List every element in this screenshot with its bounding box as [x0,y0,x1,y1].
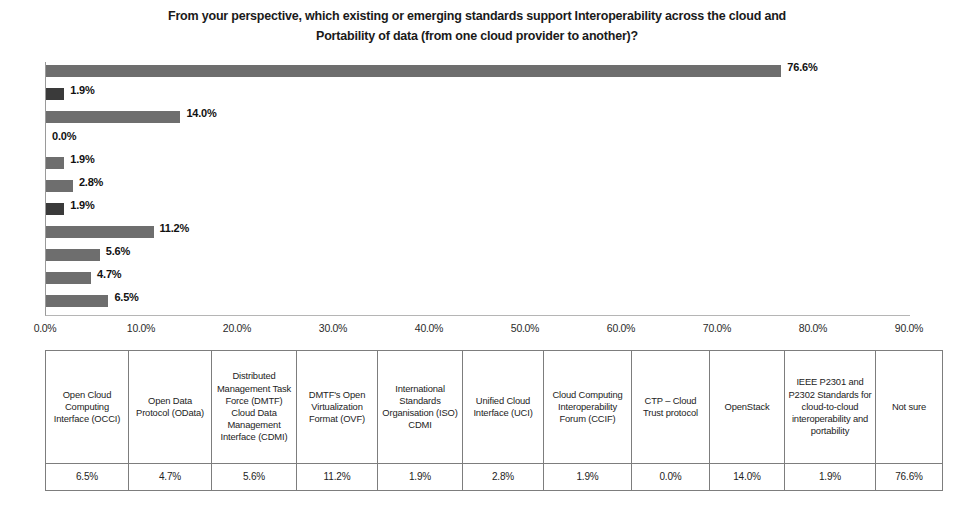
data-table: Open Cloud Computing Interface (OCCI)Ope… [45,350,943,491]
table-value-cell: 5.6% [212,464,297,491]
bar [46,295,108,307]
bar [46,226,154,238]
chart-title-line-2: Portability of data (from one cloud prov… [77,26,877,46]
x-axis-tick-label: 90.0% [874,322,944,334]
bar-row: 11.2% [46,223,910,246]
bar-row: 6.5% [46,292,910,315]
table-header-cell: International Standards Organisation (IS… [378,351,463,464]
table-value-cell: 6.5% [46,464,129,491]
table-value-cell: 11.2% [297,464,378,491]
bar-value-label: 0.0% [52,130,76,142]
table-header-cell: Open Data Protocol (OData) [129,351,212,464]
bar [46,180,73,192]
bar [46,88,64,100]
table-value-cell: 1.9% [544,464,632,491]
bar-row: 2.8% [46,177,910,200]
x-axis-tick-label: 40.0% [394,322,464,334]
bar-row: 1.9% [46,200,910,223]
table-value-cell: 2.8% [463,464,544,491]
bar-value-label: 4.7% [97,268,121,280]
table-value-cell: 0.0% [632,464,710,491]
table-header-cell: OpenStack [710,351,785,464]
table-header-cell: CTP – Cloud Trust protocol [632,351,710,464]
bar [46,157,64,169]
bar-value-label: 6.5% [114,291,138,303]
table-value-row: 6.5%4.7%5.6%11.2%1.9%2.8%1.9%0.0%14.0%1.… [46,464,943,491]
bar-value-label: 76.6% [787,61,817,73]
chart-title-line-1: From your perspective, which existing or… [168,9,786,23]
x-axis-tick-label: 50.0% [490,322,560,334]
table-header-cell: Not sure [876,351,943,464]
bar [46,249,100,261]
bar [46,65,781,77]
bar [46,203,64,215]
bar-value-label: 1.9% [70,84,94,96]
table-header-cell: Cloud Computing Interoperability Forum (… [544,351,632,464]
x-axis-tick-label: 60.0% [586,322,656,334]
x-axis-tick-label: 20.0% [202,322,272,334]
table-header-cell: DMTF's Open Virtualization Format (OVF) [297,351,378,464]
bar-value-label: 1.9% [70,153,94,165]
table-value-cell: 14.0% [710,464,785,491]
table-value-cell: 4.7% [129,464,212,491]
bar-row: 1.9% [46,85,910,108]
bar [46,111,180,123]
bar-row: 0.0% [46,131,910,154]
table-header-cell: Open Cloud Computing Interface (OCCI) [46,351,129,464]
x-axis-tick-labels: 0.0%10.0%20.0%30.0%40.0%50.0%60.0%70.0%8… [0,322,954,340]
table-value-cell: 1.9% [785,464,876,491]
table-header-cell: Distributed Management Task Force (DMTF)… [212,351,297,464]
bar-row: 1.9% [46,154,910,177]
bar [46,272,91,284]
bar-value-label: 2.8% [79,176,103,188]
bar-value-label: 11.2% [160,222,190,234]
x-axis-tick-label: 10.0% [106,322,176,334]
bar-row: 5.6% [46,246,910,269]
table-header-cell: Unified Cloud Interface (UCI) [463,351,544,464]
bar-row: 4.7% [46,269,910,292]
x-axis-tick-label: 80.0% [778,322,848,334]
x-axis-tick-label: 0.0% [10,322,80,334]
bar-row: 14.0% [46,108,910,131]
bar-value-label: 14.0% [186,107,216,119]
x-axis-tick-label: 70.0% [682,322,752,334]
table-header-cell: IEEE P2301 and P2302 Standards for cloud… [785,351,876,464]
chart-title: From your perspective, which existing or… [77,6,877,46]
table-value-cell: 76.6% [876,464,943,491]
data-table-container: Open Cloud Computing Interface (OCCI)Ope… [45,350,905,491]
table-header-row: Open Cloud Computing Interface (OCCI)Ope… [46,351,943,464]
bar-row: 76.6% [46,62,910,85]
bar-value-label: 1.9% [70,199,94,211]
table-value-cell: 1.9% [378,464,463,491]
bar-value-label: 5.6% [106,245,130,257]
x-axis-tick-label: 30.0% [298,322,368,334]
bar-chart-plot-area: 76.6%1.9%14.0%0.0%1.9%2.8%1.9%11.2%5.6%4… [45,62,910,316]
